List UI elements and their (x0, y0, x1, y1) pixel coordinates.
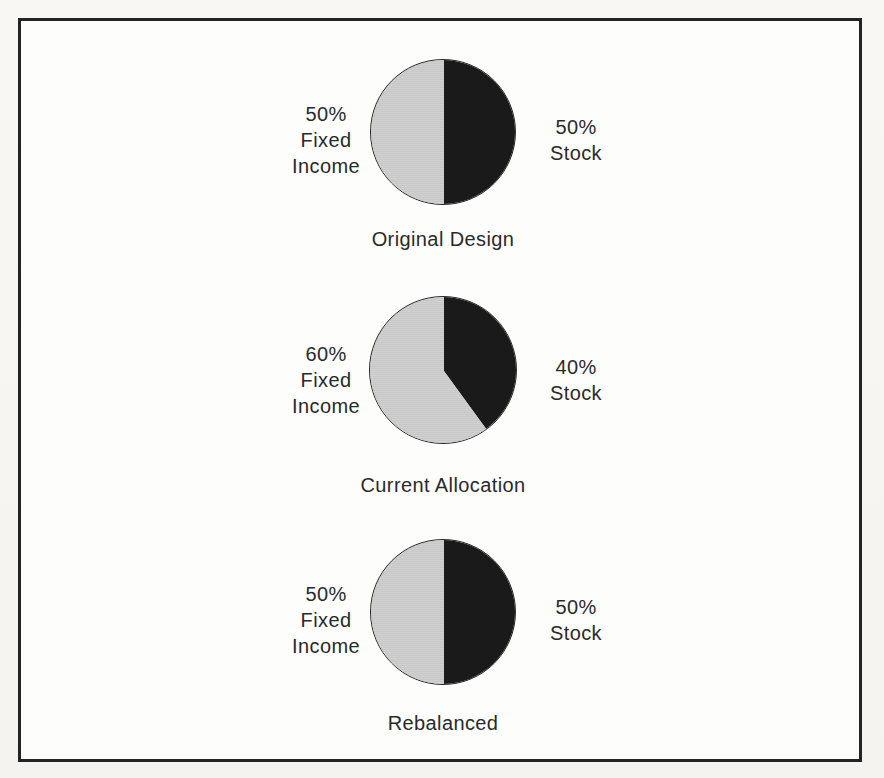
pie-caption-current-allocation: Current Allocation (21, 473, 865, 497)
pie-label-right-stock-1: 50% Stock (501, 114, 651, 166)
pie-caption-original-design: Original Design (21, 227, 865, 251)
pie-chart-block-original-design: 50% Fixed Income 50% Stock Original Desi… (21, 39, 865, 269)
pie-slices (371, 540, 516, 685)
pie-chart-rebalanced (370, 539, 516, 685)
pie-chart-current-allocation (369, 296, 517, 444)
pie-slice-fixed-income (371, 540, 444, 685)
pie-slices (370, 297, 517, 444)
pie-chart-original-design (370, 59, 516, 205)
pie-caption-rebalanced: Rebalanced (21, 711, 865, 735)
pie-label-right-stock-3: 50% Stock (501, 594, 651, 646)
pie-chart-block-current-allocation: 60% Fixed Income 40% Stock Current Alloc… (21, 279, 865, 514)
pie-slices (371, 60, 516, 205)
pie-label-right-stock-2: 40% Stock (501, 354, 651, 406)
figure-frame: 50% Fixed Income 50% Stock Original Desi… (18, 18, 862, 762)
pie-slice-fixed-income (371, 60, 444, 205)
pie-chart-block-rebalanced: 50% Fixed Income 50% Stock Rebalanced (21, 519, 865, 749)
